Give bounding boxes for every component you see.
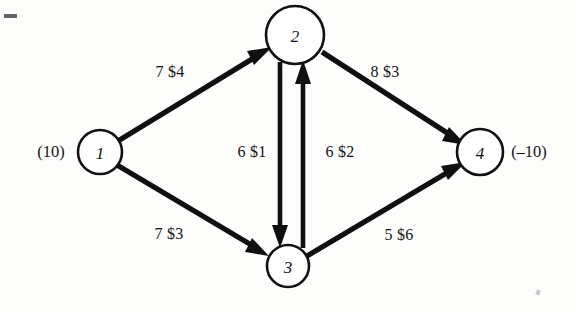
arc-2-to-3 — [272, 62, 288, 248]
arc-1-to-3-line — [117, 165, 258, 249]
arc-1-to-2-label: 7 $4 — [156, 63, 185, 81]
arc-3-to-2-label: 6 $2 — [326, 143, 355, 161]
arc-1-to-3 — [117, 165, 269, 256]
network-flow-diagram: 1 2 3 4 (10) (–10) 7 $4 7 $3 8 $3 5 $6 6… — [0, 0, 570, 310]
node-3-label: 3 — [284, 259, 293, 276]
arc-2-to-3-label: 6 $1 — [238, 143, 267, 161]
arc-2-to-4-label: 8 $3 — [371, 63, 400, 81]
node-4-label: 4 — [476, 145, 485, 162]
node-1-label: 1 — [96, 145, 105, 162]
arc-1-to-2 — [118, 47, 272, 141]
node-2-label: 2 — [291, 28, 300, 45]
arc-3-to-2 — [295, 60, 311, 248]
arc-1-to-3-label: 7 $3 — [155, 225, 184, 243]
node-1-supply-label: (10) — [37, 142, 65, 162]
arc-3-to-4-line — [307, 168, 455, 256]
arc-3-to-4-label: 5 $6 — [385, 226, 414, 244]
node-4-demand-label: (–10) — [511, 142, 547, 162]
arc-1-to-2-line — [118, 53, 262, 141]
